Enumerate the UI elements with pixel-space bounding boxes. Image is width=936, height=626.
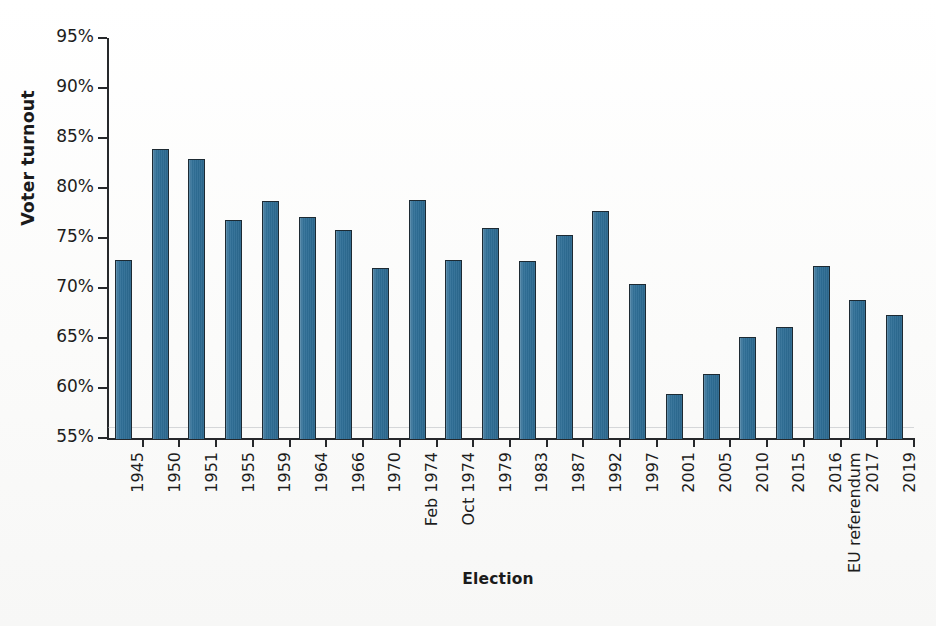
x-tick-mark [582,438,584,447]
y-tick-label: 85% [56,126,94,146]
x-tick-label: 1970 [387,452,403,493]
y-tick-mark [98,287,107,289]
x-tick-label: 2010 [755,452,771,493]
bar [666,394,683,439]
x-tick-mark [362,438,364,447]
bar [739,337,756,439]
voter-turnout-bar-chart: Voter turnout 95%90%85%80%75%70%65%60%55… [0,0,936,626]
y-tick-mark [98,387,107,389]
x-tick-label: Feb 1974 [424,452,440,526]
bar [225,220,242,439]
y-tick-label: 65% [56,326,94,346]
bar [188,159,205,439]
bar [776,327,793,439]
y-tick-mark [98,137,107,139]
bar [849,300,866,439]
bar [703,374,720,439]
x-tick-label: Oct 1974 [461,452,477,525]
x-tick-mark [803,438,805,447]
x-tick-label: 2005 [718,452,734,493]
bar [556,235,573,439]
x-tick-label: 2019 [902,452,918,493]
x-tick-mark [913,438,915,447]
x-tick-label: 1979 [498,452,514,493]
bar [482,228,499,439]
y-tick-label: 80% [56,176,94,196]
y-tick-mark [98,87,107,89]
x-tick-label: 1945 [130,452,146,493]
bar [335,230,352,439]
x-tick-mark [656,438,658,447]
x-tick-mark [178,438,180,447]
x-tick-mark [729,438,731,447]
y-tick-mark [98,237,107,239]
x-tick-label-line: EU referendum [847,452,863,573]
x-tick-label-line: 2016 [828,452,844,493]
y-axis-line [107,38,109,439]
y-tick-label: 75% [56,226,94,246]
x-tick-label: 1964 [314,452,330,493]
bar [813,266,830,439]
bar [629,284,646,439]
bar [886,315,903,439]
plot-area: 95%90%85%80%75%70%65%60%55% [107,38,915,438]
bar [262,201,279,439]
x-tick-label: 1959 [277,452,293,493]
y-axis-title: Voter turnout [18,68,38,248]
x-tick-mark [509,438,511,447]
x-tick-label: 2017 [865,452,881,493]
x-tick-label: 1955 [241,452,257,493]
x-tick-mark [766,438,768,447]
x-tick-label: 2015 [791,452,807,493]
bar [299,217,316,439]
x-tick-label: 1950 [167,452,183,493]
y-tick-label: 55% [56,426,94,446]
x-tick-mark [142,438,144,447]
y-tick-mark [98,437,107,439]
x-tick-mark [399,438,401,447]
bar [409,200,426,439]
x-axis-title: Election [462,570,534,588]
x-tick-mark [840,438,842,447]
x-tick-label: 1983 [534,452,550,493]
bar [372,268,389,439]
bar [519,261,536,439]
x-tick-label: 1966 [351,452,367,493]
x-tick-label: 1987 [571,452,587,493]
x-tick-label: 1951 [204,452,220,493]
bar [152,149,169,439]
bar [115,260,132,439]
x-tick-mark [546,438,548,447]
x-tick-mark [215,438,217,447]
x-tick-mark [436,438,438,447]
bar [592,211,609,439]
bar [445,260,462,439]
x-tick-mark [876,438,878,447]
x-tick-label: 2001 [681,452,697,493]
x-tick-mark [619,438,621,447]
y-tick-mark [98,337,107,339]
x-tick-mark [472,438,474,447]
y-tick-label: 60% [56,376,94,396]
x-tick-mark [693,438,695,447]
y-tick-label: 70% [56,276,94,296]
x-tick-mark [252,438,254,447]
x-tick-label: 1992 [608,452,624,493]
y-tick-mark [98,37,107,39]
x-tick-mark [325,438,327,447]
y-tick-label: 95% [56,26,94,46]
x-tick-mark [289,438,291,447]
y-tick-mark [98,187,107,189]
y-tick-label: 90% [56,76,94,96]
x-axis-title-wrap: Election [0,570,936,588]
x-tick-label: 1997 [645,452,661,493]
